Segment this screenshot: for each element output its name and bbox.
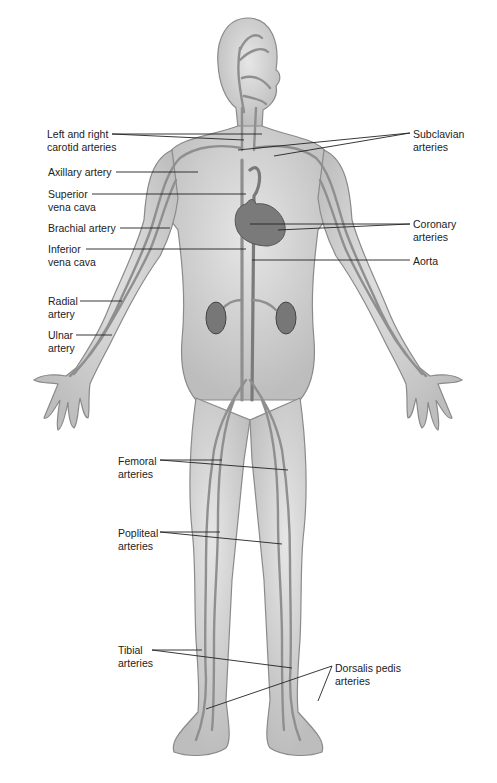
label-line: Left and right xyxy=(47,128,116,141)
head xyxy=(218,18,280,128)
label-line: Radial xyxy=(48,295,78,308)
label-coronary-arteries: Coronary arteries xyxy=(413,218,456,244)
label-ulnar-artery: Ulnar artery xyxy=(48,329,75,355)
label-line: arteries xyxy=(118,657,153,670)
label-line: arteries xyxy=(335,675,401,688)
label-line: Femoral xyxy=(118,455,157,468)
label-line: Inferior xyxy=(48,243,96,256)
label-line: Dorsalis pedis xyxy=(335,662,401,675)
label-line: Popliteal xyxy=(118,527,158,540)
label-line: Coronary xyxy=(413,218,456,231)
label-line: Aorta xyxy=(413,255,438,268)
left-kidney xyxy=(206,302,226,334)
label-aorta: Aorta xyxy=(413,255,438,268)
label-line: Subclavian xyxy=(413,128,464,141)
label-inferior-vena-cava: Inferior vena cava xyxy=(48,243,96,269)
label-line: arteries xyxy=(413,231,456,244)
label-femoral-arteries: Femoral arteries xyxy=(118,455,157,481)
label-line: arteries xyxy=(413,141,464,154)
right-arm xyxy=(318,150,462,430)
label-brachial-artery: Brachial artery xyxy=(48,222,116,235)
label-superior-vena-cava: Superior vena cava xyxy=(48,188,96,214)
label-line: artery xyxy=(48,342,75,355)
label-line: Brachial artery xyxy=(48,222,116,235)
label-line: arteries xyxy=(118,468,157,481)
torso xyxy=(162,126,334,400)
label-dorsalis-pedis-arteries: Dorsalis pedis arteries xyxy=(335,662,401,688)
label-line: Tibial xyxy=(118,644,153,657)
label-line: vena cava xyxy=(48,201,96,214)
label-line: arteries xyxy=(118,540,158,553)
label-carotid-arteries: Left and right carotid arteries xyxy=(47,128,116,154)
label-tibial-arteries: Tibial arteries xyxy=(118,644,153,670)
label-line: Axillary artery xyxy=(48,166,112,179)
left-leg xyxy=(173,398,250,755)
label-line: Ulnar xyxy=(48,329,75,342)
label-line: Superior xyxy=(48,188,96,201)
label-line: vena cava xyxy=(48,256,96,269)
right-kidney xyxy=(276,302,296,334)
leader-dorsalis-2 xyxy=(318,666,332,701)
label-popliteal-arteries: Popliteal arteries xyxy=(118,527,158,553)
circulatory-system-figure xyxy=(0,0,497,783)
label-line: carotid arteries xyxy=(47,141,116,154)
label-radial-artery: Radial artery xyxy=(48,295,78,321)
right-leg xyxy=(250,398,323,755)
label-subclavian-arteries: Subclavian arteries xyxy=(413,128,464,154)
label-axillary-artery: Axillary artery xyxy=(48,166,112,179)
label-line: artery xyxy=(48,308,78,321)
